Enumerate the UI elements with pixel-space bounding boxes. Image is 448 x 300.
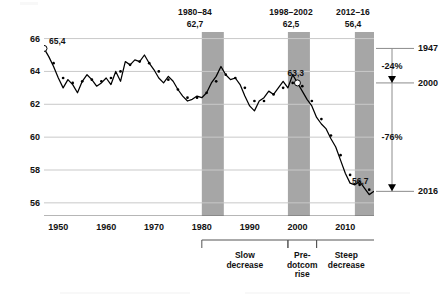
bracket-0 [202, 240, 288, 248]
bracket-line-2: decrease [226, 261, 263, 271]
arrow-head-1 [388, 184, 396, 191]
bracket-caption-pre-dotcom-rise: Pre- dotcom rise [287, 251, 318, 280]
shaded-band-1998-2002 [288, 32, 310, 216]
band-header-1980-84: 1980–84 62,7 [145, 8, 245, 28]
band-header-value: 56,4 [303, 20, 403, 29]
arrow-head-0 [388, 76, 396, 83]
bracket-1 [288, 240, 317, 248]
bracket-line-2: decrease [328, 261, 365, 271]
period-brackets: Slow decrease Pre- dotcom rise Steep dec… [44, 239, 374, 297]
y-tick-label: 58 [30, 165, 40, 175]
y-axis: 565860626466 [8, 32, 40, 216]
chart-figure: 1980–84 62,7 1998–2002 62,5 2012–16 56,4… [0, 0, 448, 300]
plot-svg [44, 32, 374, 216]
callout-end: 56,7 [352, 176, 369, 186]
right-scale-year-2016: 2016 [418, 186, 438, 196]
y-tick-label: 66 [30, 34, 40, 44]
bracket-caption-slow-decrease: Slow decrease [226, 251, 263, 270]
y-tick-label: 64 [30, 66, 40, 76]
right-scale-change-minus24pct: -24% [381, 61, 402, 71]
band-header-years: 2012–16 [303, 8, 403, 17]
y-tick-label: 62 [30, 99, 40, 109]
band-header-2012-16: 2012–16 56,4 [303, 8, 403, 28]
bracket-line-3: rise [287, 270, 318, 280]
bracket-2 [317, 240, 374, 248]
scan-artifact [60, 292, 190, 294]
band-header-years: 1980–84 [145, 8, 245, 17]
right-scale-year-2000: 2000 [418, 78, 438, 88]
x-tick-label: 1980 [192, 222, 212, 232]
right-scale-year-1947: 1947 [418, 43, 438, 53]
scan-artifact [20, 2, 38, 5]
plot-area [44, 32, 374, 216]
x-axis: 1950196019701980199020002010 [44, 222, 374, 236]
scan-artifact [245, 292, 410, 294]
right-scale-change-minus76pct: -76% [381, 132, 402, 142]
y-tick-label: 60 [30, 132, 40, 142]
x-tick-label: 1970 [144, 222, 164, 232]
band-header-value: 62,7 [145, 20, 245, 29]
bracket-lines [44, 239, 374, 251]
callout-start: 65,4 [49, 36, 66, 46]
x-tick-label: 2010 [335, 222, 355, 232]
x-tick-label: 1960 [96, 222, 116, 232]
callout-peak: 63,3 [287, 68, 304, 78]
x-tick-label: 2000 [287, 222, 307, 232]
point-marker-63-3 [294, 80, 300, 86]
right-change-scale: 194720002016-24%-76% [376, 32, 448, 222]
shaded-band-1980-84 [202, 32, 224, 216]
x-tick-label: 1990 [240, 222, 260, 232]
point-marker-65-4 [44, 45, 47, 51]
y-tick-label: 56 [30, 198, 40, 208]
x-tick-label: 1950 [48, 222, 68, 232]
bracket-caption-steep-decrease: Steep decrease [328, 251, 365, 270]
